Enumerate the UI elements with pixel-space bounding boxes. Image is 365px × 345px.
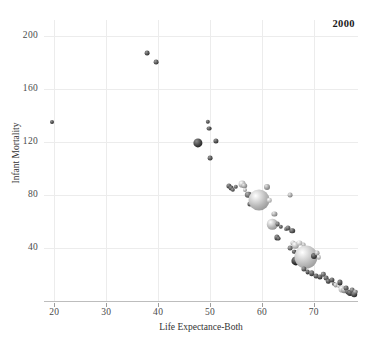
gridline-vertical — [210, 20, 211, 301]
gridline-vertical — [54, 20, 55, 301]
data-point-bubble — [234, 185, 238, 189]
x-axis-title: Life Expectance-Both — [44, 322, 358, 332]
x-axis-tick-label: 70 — [294, 307, 334, 317]
data-point-bubble — [337, 280, 342, 285]
x-axis-tick-label: 60 — [242, 307, 282, 317]
data-point-bubble — [267, 198, 271, 202]
gridline-horizontal — [44, 89, 358, 90]
data-point-bubble — [193, 139, 202, 148]
x-axis-tick-label: 20 — [34, 307, 74, 317]
x-axis-tick-label: 30 — [86, 307, 126, 317]
data-point-bubble — [264, 184, 270, 190]
data-point-bubble — [278, 225, 282, 229]
y-axis-tick-label: 40 — [0, 242, 38, 252]
gridline-vertical — [262, 20, 263, 301]
y-axis-tick-label: 200 — [0, 30, 38, 40]
data-point-bubble — [289, 228, 295, 234]
x-axis-tick-label: 50 — [190, 307, 230, 317]
data-point-bubble — [288, 193, 293, 198]
gridline-vertical — [106, 20, 107, 301]
year-annotation: 2000 — [332, 18, 355, 29]
x-axis-line — [44, 301, 358, 302]
gridline-horizontal — [44, 195, 358, 196]
y-axis-tick-label: 120 — [0, 136, 38, 146]
data-point-bubble — [50, 120, 54, 124]
gridline-horizontal — [44, 36, 358, 37]
y-axis-tick-label: 80 — [0, 189, 38, 199]
plot-area — [44, 20, 358, 301]
x-axis-tick-label: 40 — [138, 307, 178, 317]
bubble-chart-figure: Life Expectance-Both Infant Mortality 20… — [0, 0, 365, 345]
data-point-bubble — [272, 211, 277, 216]
data-point-bubble — [208, 155, 213, 160]
data-point-bubble — [276, 236, 281, 241]
data-point-bubble — [317, 255, 321, 259]
data-point-bubble — [207, 126, 212, 131]
data-point-bubble — [144, 51, 149, 56]
y-axis-tick-label: 160 — [0, 83, 38, 93]
data-point-bubble — [154, 60, 159, 65]
y-axis-title: Infant Mortality — [11, 83, 21, 223]
